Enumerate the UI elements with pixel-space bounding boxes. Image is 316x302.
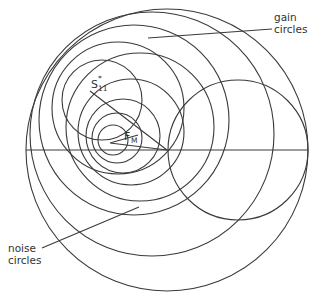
s11-conjugate-star: * [98, 74, 102, 83]
fm-subscript: M [131, 136, 137, 145]
noise-circle-4 [78, 79, 184, 185]
s11-subscript: 11 [98, 84, 108, 93]
noise-leader-line [42, 207, 139, 248]
fm-symbol: F [124, 130, 130, 143]
s11-conjugate-label: S 11 * [91, 74, 108, 93]
smith-chart-diagram: gain circles noise circles S 11 * F M [0, 0, 316, 302]
noise-circles [66, 53, 214, 201]
fm-label: F M [124, 130, 137, 145]
gain-label-line2: circles [274, 23, 307, 35]
noise-label-line1: noise [8, 242, 36, 254]
s11-symbol: S [91, 78, 98, 91]
noise-label-line2: circles [8, 254, 41, 266]
gain-label-line1: gain [274, 11, 297, 23]
